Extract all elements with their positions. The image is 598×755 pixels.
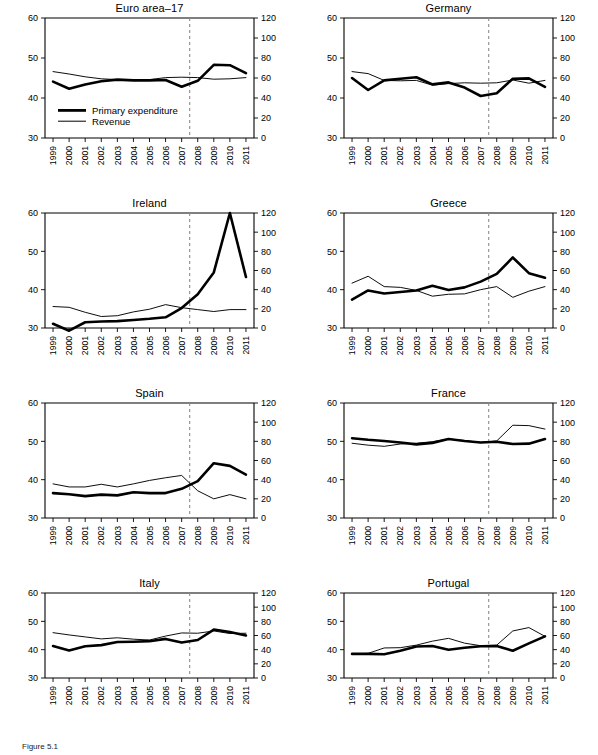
svg-text:2001: 2001: [379, 336, 389, 355]
svg-text:2008: 2008: [193, 686, 203, 705]
svg-text:2005: 2005: [444, 686, 454, 705]
svg-text:2001: 2001: [379, 526, 389, 545]
panel-plot: 3040506002040608010012019992000200120022…: [299, 0, 598, 195]
svg-text:2010: 2010: [524, 336, 534, 355]
chart-legend: Primary expenditureRevenue: [58, 105, 178, 127]
svg-text:2009: 2009: [508, 146, 518, 165]
x-axis-ticks: 1999200020012002200320042005200620072008…: [347, 678, 550, 705]
legend-label-revenue: Revenue: [92, 116, 130, 127]
svg-text:120: 120: [560, 588, 575, 598]
svg-text:1999: 1999: [48, 336, 58, 355]
svg-text:2005: 2005: [145, 336, 155, 355]
svg-text:2011: 2011: [241, 526, 251, 545]
series-revenue: [53, 631, 246, 640]
svg-text:100: 100: [560, 228, 575, 238]
svg-text:2005: 2005: [444, 526, 454, 545]
svg-text:60: 60: [560, 266, 570, 276]
svg-text:40: 40: [261, 93, 271, 103]
svg-text:20: 20: [560, 113, 570, 123]
svg-text:80: 80: [560, 437, 570, 447]
svg-text:2011: 2011: [540, 336, 550, 355]
series-primary-expenditure: [352, 636, 545, 654]
svg-text:50: 50: [28, 437, 38, 447]
right-axis-ticks: 020406080100120: [553, 208, 575, 333]
right-axis-ticks: 020406080100120: [254, 398, 276, 523]
series-revenue: [53, 305, 246, 317]
svg-text:0: 0: [261, 323, 266, 333]
svg-text:2011: 2011: [540, 146, 550, 165]
svg-text:2000: 2000: [64, 146, 74, 165]
svg-text:40: 40: [327, 285, 337, 295]
svg-text:1999: 1999: [347, 686, 357, 705]
svg-text:2001: 2001: [80, 526, 90, 545]
svg-text:2002: 2002: [395, 146, 405, 165]
panel-plot: 3040506002040608010012019992000200120022…: [299, 575, 598, 735]
svg-text:2011: 2011: [241, 336, 251, 355]
svg-text:2000: 2000: [64, 686, 74, 705]
svg-text:120: 120: [560, 13, 575, 23]
svg-text:2008: 2008: [193, 146, 203, 165]
svg-text:100: 100: [261, 418, 276, 428]
svg-text:30: 30: [28, 673, 38, 683]
left-axis-ticks: 30405060: [327, 398, 344, 523]
svg-text:2008: 2008: [492, 526, 502, 545]
svg-text:20: 20: [560, 659, 570, 669]
svg-text:40: 40: [28, 475, 38, 485]
svg-text:50: 50: [327, 247, 337, 257]
svg-text:2000: 2000: [64, 526, 74, 545]
svg-text:50: 50: [28, 53, 38, 63]
svg-text:2010: 2010: [225, 526, 235, 545]
svg-text:40: 40: [560, 475, 570, 485]
svg-text:40: 40: [261, 475, 271, 485]
svg-text:40: 40: [261, 645, 271, 655]
svg-text:40: 40: [28, 645, 38, 655]
svg-text:2005: 2005: [145, 686, 155, 705]
left-axis-ticks: 30405060: [28, 398, 45, 523]
svg-text:2007: 2007: [476, 686, 486, 705]
svg-text:30: 30: [28, 133, 38, 143]
svg-text:120: 120: [261, 588, 276, 598]
svg-text:2004: 2004: [129, 146, 139, 165]
svg-text:20: 20: [261, 659, 271, 669]
svg-text:60: 60: [327, 13, 337, 23]
svg-text:2006: 2006: [161, 146, 171, 165]
right-axis-ticks: 020406080100120: [553, 588, 575, 683]
svg-text:0: 0: [560, 673, 565, 683]
svg-text:2004: 2004: [428, 146, 438, 165]
svg-text:60: 60: [327, 588, 337, 598]
svg-text:2009: 2009: [508, 526, 518, 545]
svg-text:2003: 2003: [113, 336, 123, 355]
svg-text:30: 30: [327, 323, 337, 333]
svg-text:2000: 2000: [363, 526, 373, 545]
svg-text:2007: 2007: [177, 686, 187, 705]
svg-text:0: 0: [261, 673, 266, 683]
svg-text:60: 60: [28, 588, 38, 598]
svg-text:60: 60: [261, 266, 271, 276]
svg-text:50: 50: [327, 53, 337, 63]
svg-text:40: 40: [560, 645, 570, 655]
svg-text:2004: 2004: [129, 336, 139, 355]
svg-text:60: 60: [28, 398, 38, 408]
svg-text:2003: 2003: [412, 686, 422, 705]
svg-text:1999: 1999: [347, 526, 357, 545]
svg-text:1999: 1999: [48, 686, 58, 705]
svg-text:2008: 2008: [193, 526, 203, 545]
svg-text:60: 60: [560, 631, 570, 641]
svg-text:2007: 2007: [177, 146, 187, 165]
svg-text:2009: 2009: [508, 336, 518, 355]
svg-text:60: 60: [560, 73, 570, 83]
svg-text:2008: 2008: [492, 146, 502, 165]
panel-plot: 3040506002040608010012019992000200120022…: [0, 575, 299, 735]
svg-text:2006: 2006: [460, 686, 470, 705]
svg-text:2003: 2003: [113, 146, 123, 165]
x-axis-ticks: 1999200020012002200320042005200620072008…: [48, 678, 251, 705]
chart-panel-spain: Spain30405060020406080100120199920002001…: [0, 385, 299, 575]
svg-text:2001: 2001: [80, 146, 90, 165]
svg-text:80: 80: [560, 617, 570, 627]
svg-text:40: 40: [28, 93, 38, 103]
svg-text:0: 0: [560, 513, 565, 523]
right-axis-ticks: 020406080100120: [254, 588, 276, 683]
svg-text:2006: 2006: [161, 686, 171, 705]
svg-text:0: 0: [261, 513, 266, 523]
svg-text:40: 40: [327, 475, 337, 485]
